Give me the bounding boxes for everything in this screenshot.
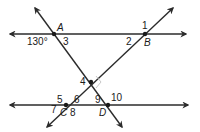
angle-label-7: 7 xyxy=(51,104,57,115)
point-label-B: B xyxy=(144,37,151,48)
point-label-D: D xyxy=(99,107,106,118)
point-label-A: A xyxy=(56,22,64,33)
point-label-C: C xyxy=(60,107,68,118)
angle-label-5: 5 xyxy=(57,94,63,105)
angle-label-3: 3 xyxy=(63,36,69,47)
angle-label-6: 6 xyxy=(74,94,80,105)
given-angle-label: 130° xyxy=(27,36,48,47)
transversal-AD xyxy=(35,8,122,127)
angle-label-4: 4 xyxy=(80,76,86,87)
angle-label-8: 8 xyxy=(70,107,76,118)
intersection-dot xyxy=(89,80,93,84)
point-D-dot xyxy=(106,103,110,107)
angle-label-2: 2 xyxy=(126,36,132,47)
angle-label-1: 1 xyxy=(142,20,148,31)
angle-label-9: 9 xyxy=(95,94,101,105)
point-A-dot xyxy=(52,32,56,36)
point-B-dot xyxy=(143,32,147,36)
angle-label-10: 10 xyxy=(111,92,123,103)
geometry-diagram: A B C D 130° 1 2 3 4 5 6 7 8 9 10 xyxy=(0,0,200,132)
